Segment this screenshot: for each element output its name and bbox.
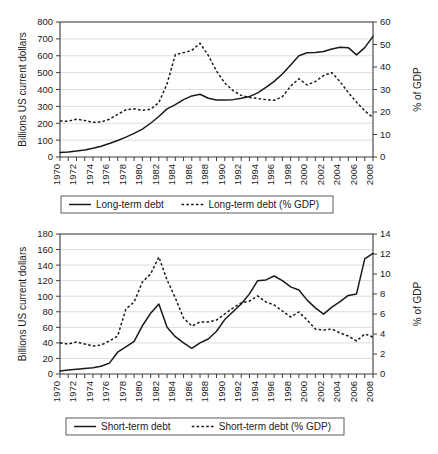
y2-tick-label: 2 [380,348,385,359]
y-tick-label: 500 [37,67,53,78]
y2-tick-label: 14 [380,228,391,239]
x-tick-label: 1986 [183,164,194,185]
y-tick-label: 100 [37,291,53,302]
y-tick-label: 160 [37,244,53,255]
chart-svg: 0204060801001201401601800246810121419701… [0,222,438,454]
x-tick-label: 1992 [232,381,243,402]
x-tick-label: 1986 [183,381,194,402]
y-tick-label: 80 [42,306,53,317]
x-tick-label: 1982 [150,381,161,402]
y-tick-label: 400 [37,84,53,95]
y2-tick-label: 10 [380,268,391,279]
y2-axis-title: % of GDP [412,281,423,326]
x-tick-label: 1978 [117,381,128,402]
x-tick-label: 1970 [51,381,62,402]
y-tick-label: 800 [37,16,53,27]
legend-label-1: Short-term debt [101,421,171,432]
x-tick-label: 1980 [133,381,144,402]
y2-tick-label: 0 [380,368,385,379]
gridlines [60,234,373,358]
x-tick-label: 1976 [100,381,111,402]
y-tick-label: 120 [37,275,53,286]
y-axis-title: Billions US current dollars [17,32,28,147]
y2-tick-label: 20 [380,106,391,117]
series-line-2 [60,257,373,346]
x-tick-label: 2004 [331,164,342,185]
axes [60,234,373,374]
x-tick-label: 1990 [216,381,227,402]
y2-tick-label: 50 [380,39,391,50]
legend: Long-term debtLong-term debt (% GDP) [61,196,333,213]
gridlines [60,22,373,140]
x-tick-label: 1970 [51,164,62,185]
x-tick-label: 1984 [166,381,177,402]
y-tick-label: 40 [42,337,53,348]
y2-tick-label: 30 [380,84,391,95]
y-axis-left: 020406080100120140160180 [37,228,60,379]
x-tick-label: 1972 [67,381,78,402]
legend-label-2: Long-term debt (% GDP) [209,199,320,210]
y-axis-left: 0100200300400500600700800 [37,16,60,162]
y-tick-label: 0 [48,151,53,162]
x-tick-label: 2000 [298,381,309,402]
x-tick-label: 1972 [67,164,78,185]
x-tick-label: 1982 [150,164,161,185]
y-axis-right: 0102030405060 [373,16,391,162]
x-tick-label: 1998 [282,164,293,185]
y2-tick-label: 6 [380,308,385,319]
x-axis: 1970197219741976197819801982198419861988… [51,374,375,402]
y-tick-label: 600 [37,50,53,61]
x-tick-label: 1990 [216,164,227,185]
legend-label-2: Short-term debt (% GDP) [219,421,331,432]
y-tick-label: 700 [37,33,53,44]
y2-tick-label: 8 [380,288,385,299]
y-tick-label: 180 [37,228,53,239]
figure-two-line-charts: 0100200300400500600700800010203040506019… [0,0,438,454]
x-tick-label: 2006 [348,164,359,185]
x-tick-label: 1980 [133,164,144,185]
chart-panel-short-term-debt: 0204060801001201401601800246810121419701… [0,222,438,454]
x-tick-label: 1994 [249,164,260,185]
x-tick-label: 2008 [364,164,375,185]
chart-panel-long-term-debt: 0100200300400500600700800010203040506019… [0,0,438,222]
x-tick-label: 1974 [84,381,95,402]
x-tick-label: 1976 [100,164,111,185]
y2-tick-label: 12 [380,248,391,259]
x-tick-label: 1996 [265,381,276,402]
y-tick-label: 300 [37,101,53,112]
series-line-2 [60,43,373,122]
y2-tick-label: 10 [380,129,391,140]
y2-tick-label: 0 [380,151,385,162]
y-tick-label: 20 [42,353,53,364]
y2-tick-label: 40 [380,61,391,72]
y-axis-title: Billions US current dollars [17,247,28,362]
x-tick-label: 2002 [315,164,326,185]
y-tick-label: 60 [42,322,53,333]
y-tick-label: 140 [37,260,53,271]
y-tick-label: 0 [48,368,53,379]
x-tick-label: 2008 [364,381,375,402]
series-group [60,36,373,152]
legend-label-1: Long-term debt [96,199,164,210]
series-line-1 [60,36,373,152]
x-tick-label: 1992 [232,164,243,185]
legend: Short-term debtShort-term debt (% GDP) [66,418,344,435]
x-tick-label: 2002 [315,381,326,402]
x-tick-label: 2000 [298,164,309,185]
x-tick-label: 1988 [199,381,210,402]
x-tick-label: 1994 [249,381,260,402]
x-tick-label: 1978 [117,164,128,185]
x-tick-label: 1984 [166,164,177,185]
y-axis-right: 02468101214 [373,228,391,379]
x-tick-label: 1988 [199,164,210,185]
x-tick-label: 1996 [265,164,276,185]
x-tick-label: 2006 [348,381,359,402]
y-tick-label: 100 [37,135,53,146]
x-tick-label: 2004 [331,381,342,402]
y2-axis-title: % of GDP [412,67,423,112]
y2-tick-label: 4 [380,328,385,339]
x-tick-label: 1998 [282,381,293,402]
chart-svg: 0100200300400500600700800010203040506019… [0,0,438,222]
y-tick-label: 200 [37,118,53,129]
x-tick-label: 1974 [84,164,95,185]
